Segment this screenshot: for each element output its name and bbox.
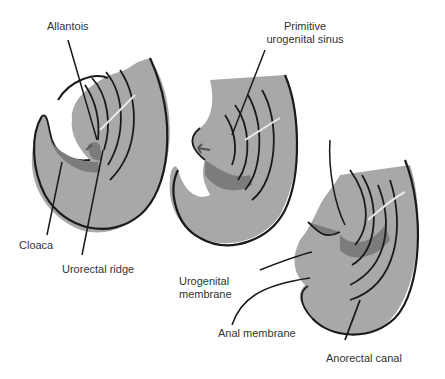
label-urorectal-ridge: Urorectal ridge xyxy=(62,263,134,276)
label-primitive-line2: urogenital sinus xyxy=(245,33,365,46)
embryo-diagram xyxy=(0,0,445,379)
label-anorectal-canal: Anorectal canal xyxy=(326,352,402,365)
label-anal-membrane: Anal membrane xyxy=(218,327,296,340)
label-urogenital-line2: membrane xyxy=(179,288,232,301)
label-urogenital-line1: Urogenital xyxy=(179,275,232,288)
label-cloaca: Cloaca xyxy=(19,239,53,252)
label-allantois: Allantois xyxy=(47,20,89,33)
stage-2-embryo xyxy=(170,50,298,245)
label-primitive-urogenital-sinus: Primitive urogenital sinus xyxy=(245,20,365,46)
stage-1-embryo xyxy=(32,40,170,255)
label-primitive-line1: Primitive xyxy=(245,20,365,33)
label-urogenital-membrane: Urogenital membrane xyxy=(179,275,232,301)
